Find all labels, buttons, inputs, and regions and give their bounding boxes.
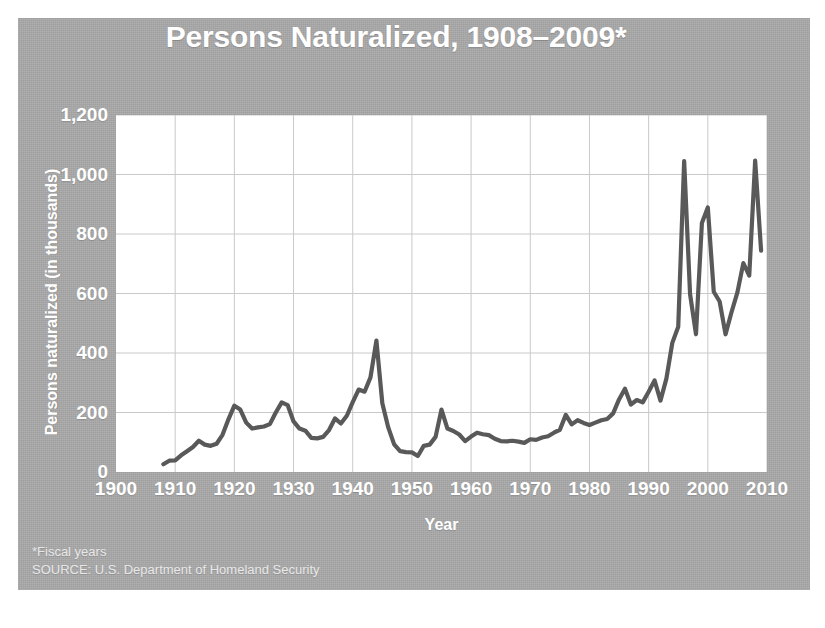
x-axis-tick-labels: 1900191019201930194019501960197019801990…	[0, 478, 825, 506]
y-axis-title: Persons naturalized (in thousands)	[43, 132, 61, 472]
chart-canvas	[116, 115, 767, 472]
chart-figure: Persons Naturalized, 1908–2009* 02004006…	[0, 0, 825, 628]
footnote-fiscal-years: *Fiscal years	[32, 544, 106, 559]
x-tick-2010: 2010	[727, 478, 807, 500]
chart-title: Persons Naturalized, 1908–2009*	[0, 20, 792, 54]
data-line-persons-naturalized	[163, 161, 761, 465]
x-axis-title: Year	[116, 516, 767, 534]
footnote-source: SOURCE: U.S. Department of Homeland Secu…	[32, 562, 320, 577]
plot-area	[116, 115, 767, 472]
y-tick-1200: 1,200	[50, 104, 108, 126]
